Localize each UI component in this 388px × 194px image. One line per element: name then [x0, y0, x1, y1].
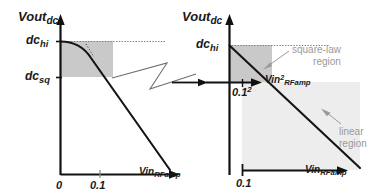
- left-y-tick-label-dc-hi: dchi: [26, 34, 48, 49]
- right-lower-x-axis-label-sub: RFamp: [320, 168, 346, 177]
- right-upper-x-axis-label: Vin2RFamp: [265, 74, 311, 87]
- left-y-tick-label-dc-sq-sub: sq: [39, 75, 50, 85]
- right-y-axis-arrowhead: [225, 14, 233, 25]
- right-y-tick-label-dc-hi-main: dc: [196, 37, 210, 51]
- right-y-tick-label-dc-hi-sub: hi: [210, 43, 218, 53]
- left-y-tick-label-dc-hi-sub: hi: [40, 39, 48, 49]
- left-x-axis-label-sub: RFamp: [154, 170, 180, 179]
- right-y-axis-label-sub: dc: [210, 15, 222, 26]
- left-y-axis-label: Voutdc: [18, 10, 58, 26]
- square-law-region-annotation-line1: square-law: [292, 44, 341, 56]
- left-y-tick-label-dc-sq: dcsq: [25, 70, 50, 85]
- right-y-tick-label-dc-hi: dchi: [196, 38, 218, 53]
- left-x-axis-label: VinRFamp: [139, 167, 181, 179]
- zigzag-zoom-connector: [112, 63, 196, 89]
- square-law-region-annotation-line2: region: [292, 56, 341, 68]
- right-upper-x-axis-label-main: Vin: [265, 74, 280, 85]
- right-lower-x-axis-label-main: Vin: [305, 164, 320, 175]
- right-y-axis-label: Voutdc: [182, 10, 222, 26]
- square-law-region-annotation: square-law region: [292, 44, 341, 67]
- left-y-axis-label-main: Vout: [18, 9, 46, 24]
- linear-region-annotation: linear region: [339, 126, 367, 149]
- right-y-axis-label-main: Vout: [182, 9, 210, 24]
- left-y-tick-label-dc-hi-main: dc: [26, 33, 40, 47]
- left-x-axis-label-main: Vin: [139, 166, 154, 177]
- left-x-tick-label-zero: 0: [56, 180, 62, 191]
- right-upper-x-tick-label: 0.12: [232, 86, 252, 98]
- left-x-tick-label-0point1: 0.1: [90, 180, 105, 191]
- left-to-right-link-arrowhead: [198, 79, 208, 86]
- right-upper-x-axis-label-sub: RFamp: [284, 78, 310, 87]
- linear-region-annotation-line2: region: [339, 138, 367, 150]
- left-y-axis-label-sub: dc: [46, 15, 58, 26]
- figure-canvas: Voutdc dchi dcsq 0 0.1 VinRFamp Voutdc d…: [0, 0, 388, 194]
- right-lower-x-axis-label: VinRFamp: [305, 165, 347, 177]
- left-square-law-shaded-box: [60, 41, 113, 77]
- linear-region-annotation-line1: linear: [339, 126, 367, 138]
- right-lower-x-tick-label-0point1: 0.1: [236, 178, 251, 189]
- left-y-tick-label-dc-sq-main: dc: [25, 69, 39, 83]
